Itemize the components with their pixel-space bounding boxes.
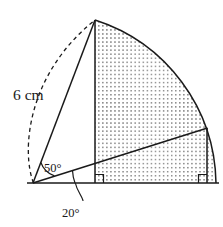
angle-50-label: 50° xyxy=(44,161,62,175)
angle-20-arc xyxy=(73,171,76,184)
shaded-region xyxy=(95,20,216,183)
geometry-figure: 6 cm 50° 20° xyxy=(0,0,223,227)
radius-length-label: 6 cm xyxy=(13,86,44,103)
figure-canvas: 6 cm 50° 20° xyxy=(0,0,223,227)
angle-20-label: 20° xyxy=(62,206,80,220)
angle-20-leader-line xyxy=(76,184,84,201)
shaded-region-fill xyxy=(95,20,216,183)
